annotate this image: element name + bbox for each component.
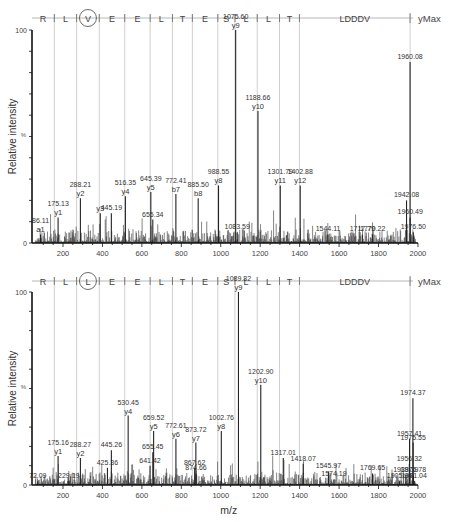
- sequence-residue: T: [287, 14, 293, 24]
- peak-mz-label: 1769.65: [360, 464, 385, 471]
- ion-label: b7: [172, 185, 180, 194]
- peak-mz-label: 1083.59: [225, 223, 250, 230]
- peak-mz-label: 1976.50: [401, 223, 426, 230]
- peak-mz-label: 445.26: [101, 441, 123, 448]
- sequence-residue: L: [266, 277, 271, 287]
- peak-mz-label: 655.34: [142, 211, 164, 218]
- x-tick-label: 400: [96, 491, 109, 500]
- sequence-residue: L: [266, 14, 271, 24]
- peak-mz-label: 988.55: [208, 168, 230, 175]
- ymax-label: yMax: [418, 13, 441, 24]
- sequence-residue: L: [159, 277, 164, 287]
- spectrum-top-plot: RLVEELTESLLTLDDDVyMax86.11a1175.13y1288.…: [0, 0, 454, 261]
- peak-mz-label: 1402.88: [288, 168, 313, 175]
- ion-label: y9: [235, 283, 243, 292]
- peak-mz-label: 425.36: [97, 459, 119, 466]
- peak-mz-label: 1770.22: [360, 225, 385, 232]
- sequence-residue: L: [63, 14, 68, 24]
- ion-label: y5: [150, 422, 158, 431]
- ion-label: y5: [147, 183, 155, 192]
- peak-mz-label: 1545.97: [316, 462, 341, 469]
- y-tick-label: 0: [23, 482, 27, 489]
- ion-label: y8: [215, 176, 223, 185]
- ion-label: y10: [255, 376, 267, 385]
- peak-mz-label: 659.52: [143, 414, 165, 421]
- sequence-residue: T: [180, 14, 186, 24]
- peak-mz-label: 1960.08: [397, 53, 422, 60]
- y-axis-title: Relative intensity: [7, 351, 18, 427]
- sequence-residue: T: [287, 277, 293, 287]
- x-tick-label: 600: [136, 249, 149, 258]
- peak-mz-label: 288.27: [70, 441, 92, 448]
- x-tick-label: 200: [57, 491, 70, 500]
- ion-label: y11: [274, 176, 286, 185]
- peak-mz-label: 1960.49: [398, 208, 423, 215]
- x-tick-label: 800: [175, 249, 188, 258]
- y-percent-label: %: [21, 384, 27, 390]
- peak-mz-label: 1089.82: [226, 275, 251, 282]
- peak-mz-label: 1544.11: [316, 225, 341, 232]
- ion-label: b8: [194, 189, 202, 198]
- spectrum-top: RLVEELTESLLTLDDDVyMax86.11a1175.13y1288.…: [0, 0, 454, 261]
- x-tick-label: 400: [96, 249, 109, 258]
- peak-mz-label: 874.66: [185, 464, 207, 471]
- x-tick-label: 1200: [252, 249, 269, 258]
- sequence-residue: E: [202, 14, 208, 24]
- peak-mz-label: 1981.04: [402, 472, 427, 479]
- sequence-residue: R: [40, 277, 47, 287]
- peak-mz-label: 772.61: [165, 422, 187, 429]
- ion-label: y2: [76, 449, 84, 458]
- peak-mz-label: 1002.76: [209, 414, 234, 421]
- ion-label: y8: [217, 422, 225, 431]
- ion-label: y1: [54, 447, 62, 456]
- ion-label: y4: [121, 187, 129, 196]
- peak-mz-label: 1188.66: [246, 94, 271, 101]
- sequence-residue: T: [180, 277, 186, 287]
- ymax-label: yMax: [418, 276, 441, 287]
- y-tick-label: 0: [23, 240, 27, 247]
- ion-label: y12: [294, 176, 306, 185]
- x-axis-title: m/z: [220, 504, 237, 516]
- peak-mz-label: 1574.19: [321, 470, 346, 477]
- ion-label: y6: [172, 430, 180, 439]
- peak-mz-label: 86.11: [32, 217, 49, 224]
- peak-mz-label: 1202.90: [248, 368, 273, 375]
- peak-mz-label: 175.16: [47, 439, 69, 446]
- x-tick-label: 600: [136, 491, 149, 500]
- y-percent-label: %: [21, 132, 27, 138]
- peak-mz-label: 641.42: [139, 457, 161, 464]
- peak-mz-label: 873.72: [185, 426, 207, 433]
- ion-label: y2: [76, 189, 84, 198]
- sequence-residue: E: [109, 14, 115, 24]
- ion-label: y1: [54, 208, 62, 217]
- peak-mz-label: 516.35: [115, 179, 137, 186]
- x-tick-label: 200: [57, 249, 70, 258]
- ion-label: y4: [124, 407, 132, 416]
- sequence-residue: L: [159, 14, 164, 24]
- peak-mz-label: 885.50: [187, 181, 209, 188]
- peak-mz-label: 288.21: [70, 181, 92, 188]
- peak-mz-label: 1418.07: [291, 455, 316, 462]
- peak-mz-label: 1975.55: [400, 434, 425, 441]
- ion-label: a1: [36, 225, 44, 234]
- sequence-residue: E: [134, 277, 140, 287]
- peak-mz-label: 530.45: [117, 399, 139, 406]
- ion-label: y10: [252, 102, 264, 111]
- x-tick-label: 800: [175, 491, 188, 500]
- sequence-residue: LDDDV: [339, 14, 370, 24]
- peak-mz-label: 175.13: [47, 200, 69, 207]
- x-tick-label: 1400: [291, 249, 308, 258]
- spectrum-bottom: RLLEELTESLLTLDDDVyMax72.09175.16y1229.19…: [0, 261, 454, 522]
- x-tick-label: 1600: [331, 249, 348, 258]
- peak-mz-label: 229.19: [58, 472, 80, 479]
- ion-label: y7: [192, 434, 200, 443]
- sequence-residue: V: [85, 14, 91, 24]
- x-tick-label: 1600: [331, 491, 348, 500]
- peak-mz-label: 645.39: [140, 175, 162, 182]
- x-tick-label: 2000: [410, 491, 427, 500]
- x-tick-label: 1800: [370, 491, 387, 500]
- sequence-residue: L: [85, 277, 90, 287]
- sequence-residue: E: [134, 14, 140, 24]
- peak-mz-label: 655.45: [142, 443, 164, 450]
- y-axis-title: Relative intensity: [7, 99, 18, 175]
